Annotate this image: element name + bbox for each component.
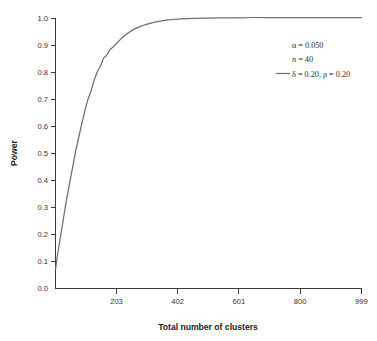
x-axis-title: Total number of clusters [158, 322, 258, 332]
y-tick-label: 0.7 [37, 95, 48, 104]
y-tick-label: 0.5 [37, 149, 48, 158]
x-tick-label: 601 [233, 297, 246, 306]
legend-series-label: δ = 0.20, ρ = 0.20 [292, 70, 350, 79]
y-tick-label: 0.3 [37, 203, 48, 212]
x-tick-label: 800 [294, 297, 307, 306]
y-tick-label: 0.0 [37, 284, 48, 293]
y-tick-label: 0.8 [37, 68, 48, 77]
legend-n-value: = 40 [296, 55, 313, 64]
y-tick-label: 0.2 [37, 230, 48, 239]
power-curve-chart: 1.0 0.9 0.8 0.7 0.6 0.5 0.4 0.3 0.2 0.1 … [0, 0, 377, 341]
chart-background [0, 0, 377, 341]
y-axis-title: Power [9, 139, 19, 165]
legend-n-label: n = 40 [292, 55, 313, 64]
y-tick-label: 0.4 [37, 176, 48, 185]
x-tick-label: 999 [355, 297, 368, 306]
x-tick-label: 203 [110, 297, 123, 306]
legend-alpha-label: α = 0.050 [292, 41, 323, 50]
x-tick-label: 402 [171, 297, 184, 306]
y-tick-label: 0.9 [37, 41, 48, 50]
y-tick-label: 0.6 [37, 122, 48, 131]
y-tick-label: 1.0 [37, 14, 48, 23]
y-tick-label: 0.1 [37, 257, 48, 266]
